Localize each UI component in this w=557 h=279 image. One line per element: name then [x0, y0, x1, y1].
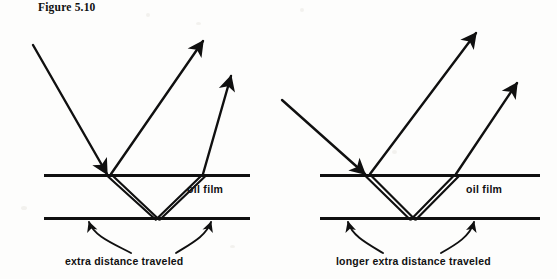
- oil-film-label-left: oil film: [187, 183, 223, 195]
- film-reflected-ray-left: [203, 76, 231, 174]
- extra-distance-label-left: extra distance traveled: [65, 255, 183, 267]
- incident-ray-left: [33, 45, 107, 174]
- figure-page: Figure 5.10: [0, 0, 557, 279]
- internal-path-down-outer-right: [372, 177, 415, 220]
- surface-reflected-ray-right: [370, 33, 476, 174]
- internal-path-down-outer-left: [114, 177, 160, 220]
- optics-diagram: [0, 0, 557, 279]
- extra-distance-label-right: longer extra distance traveled: [336, 255, 491, 267]
- internal-path-down-inner-left: [108, 177, 156, 220]
- incident-ray-right: [282, 100, 365, 174]
- leader-line-right-a: [348, 222, 383, 253]
- right-diagram: [282, 33, 540, 253]
- internal-path-up-inner-right: [411, 177, 453, 220]
- internal-path-down-inner-right: [366, 177, 410, 220]
- leader-line-right-b: [441, 222, 474, 253]
- leader-line-left-a: [89, 222, 131, 253]
- surface-reflected-ray-left: [111, 41, 203, 174]
- oil-film-label-right: oil film: [466, 183, 502, 195]
- film-reflected-ray-right: [456, 83, 517, 174]
- left-diagram: [33, 41, 250, 253]
- internal-path-up-outer-right: [416, 177, 459, 220]
- leader-line-left-b: [176, 222, 211, 253]
